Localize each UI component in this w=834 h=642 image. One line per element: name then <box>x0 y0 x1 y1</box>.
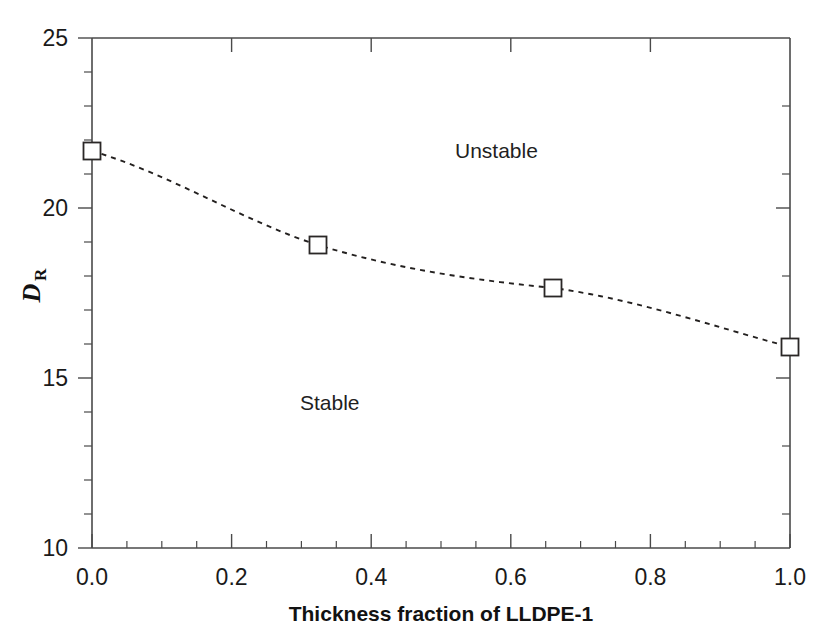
data-point-marker <box>310 237 327 254</box>
x-tick-label-5: 1.0 <box>774 564 806 590</box>
data-point-marker <box>782 339 799 356</box>
x-tick-label-4: 0.8 <box>634 564 666 590</box>
x-tick-label-2: 0.4 <box>355 564 387 590</box>
y-tick-label-20: 20 <box>42 195 68 221</box>
x-tick-label-1: 0.2 <box>216 564 248 590</box>
chart-figure: 25 20 15 10 0.0 0.2 0.4 0.6 0.8 1.0 Thic… <box>0 0 834 642</box>
annotation-stable: Stable <box>300 391 360 414</box>
y-tick-label-15: 15 <box>42 365 68 391</box>
y-tick-label-10: 10 <box>42 535 68 561</box>
data-point-marker <box>545 280 562 297</box>
annotation-unstable: Unstable <box>455 139 538 162</box>
chart-svg: 25 20 15 10 0.0 0.2 0.4 0.6 0.8 1.0 Thic… <box>0 0 834 642</box>
data-point-marker <box>84 143 101 160</box>
y-axis-title-subscript: R <box>31 268 50 281</box>
y-tick-label-25: 25 <box>42 25 68 51</box>
x-tick-label-3: 0.6 <box>495 564 527 590</box>
x-axis-title: Thickness fraction of LLDPE-1 <box>289 602 594 625</box>
y-axis-title-base: D <box>17 283 46 303</box>
x-tick-label-0: 0.0 <box>76 564 108 590</box>
chart-background <box>0 0 834 642</box>
